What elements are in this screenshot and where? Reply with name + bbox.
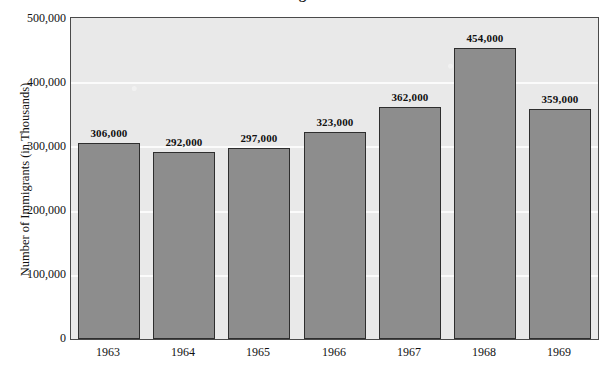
bar-1969[interactable]: [529, 109, 591, 339]
bar-value-label-1964: 292,000: [144, 136, 224, 148]
bar-value-label-1969: 359,000: [520, 93, 600, 105]
bar-value-label-1967: 362,000: [370, 91, 450, 103]
y-tick-label-0: 0: [0, 331, 66, 346]
bar-1968[interactable]: [454, 48, 516, 339]
y-tick-label-100000: 100,000: [0, 267, 66, 282]
gridline-400000: [71, 82, 598, 84]
y-tick-label-400000: 400,000: [0, 75, 66, 90]
plot-area: 306,000 292,000 297,000 323,000 362,000 …: [70, 17, 599, 340]
bar-1966[interactable]: [304, 132, 366, 339]
y-tick-label-300000: 300,000: [0, 139, 66, 154]
chart-title-fragment: Immigration: [0, 0, 610, 2]
y-axis-title: Number of Immigrants (in Thousands): [18, 65, 33, 295]
bar-value-label-1963: 306,000: [69, 127, 149, 139]
y-tick-label-500000: 500,000: [0, 11, 66, 26]
bar-value-label-1966: 323,000: [295, 116, 375, 128]
bar-value-label-1965: 297,000: [219, 132, 299, 144]
bar-value-label-1968: 454,000: [445, 32, 525, 44]
bar-1963[interactable]: [78, 143, 140, 339]
y-tick-label-200000: 200,000: [0, 203, 66, 218]
bar-1964[interactable]: [153, 152, 215, 339]
chart-figure: Immigration Number of Immigrants (in Tho…: [0, 0, 610, 366]
bar-1965[interactable]: [228, 148, 290, 339]
bar-1967[interactable]: [379, 107, 441, 339]
x-tick-label-1969: 1969: [514, 345, 604, 360]
